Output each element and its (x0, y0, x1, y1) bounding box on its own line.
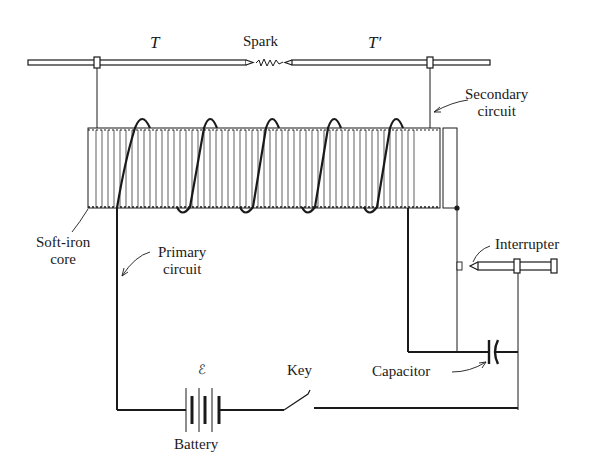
battery-icon (186, 388, 219, 432)
label-battery: Battery (174, 436, 218, 453)
label-soft-iron-core: Soft-iron core (36, 234, 90, 268)
label-interrupter: Interrupter (495, 236, 559, 253)
label-spark: Spark (243, 33, 278, 50)
terminal-rod-right (285, 57, 490, 68)
label-terminal-T: T (150, 34, 159, 51)
label-primary-circuit: Primary circuit (158, 244, 206, 278)
spark-icon (256, 59, 283, 66)
terminal-rod-left (28, 57, 253, 68)
interrupter-armature (443, 128, 457, 208)
label-capacitor: Capacitor (372, 363, 430, 380)
label-emf: ℰ (198, 361, 206, 378)
interrupter-screw (470, 259, 557, 273)
label-terminal-T-prime: T′ (368, 34, 381, 51)
key-switch-icon (284, 390, 310, 410)
induction-coil-diagram (0, 0, 611, 466)
label-secondary-circuit: Secondary circuit (465, 86, 528, 120)
label-key: Key (287, 362, 312, 379)
